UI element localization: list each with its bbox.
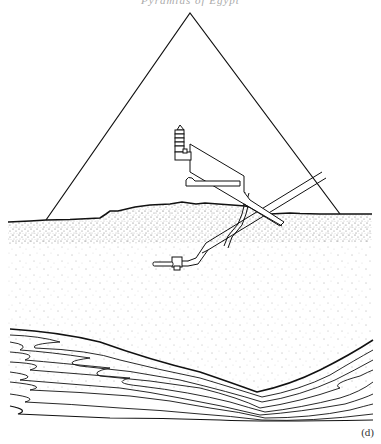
- pyramid-cross-section-diagram: [0, 0, 381, 444]
- ground-mass: [8, 203, 372, 390]
- kings-chamber: [175, 125, 191, 160]
- pyramid-outline: [46, 13, 340, 220]
- panel-label: (d): [361, 426, 374, 438]
